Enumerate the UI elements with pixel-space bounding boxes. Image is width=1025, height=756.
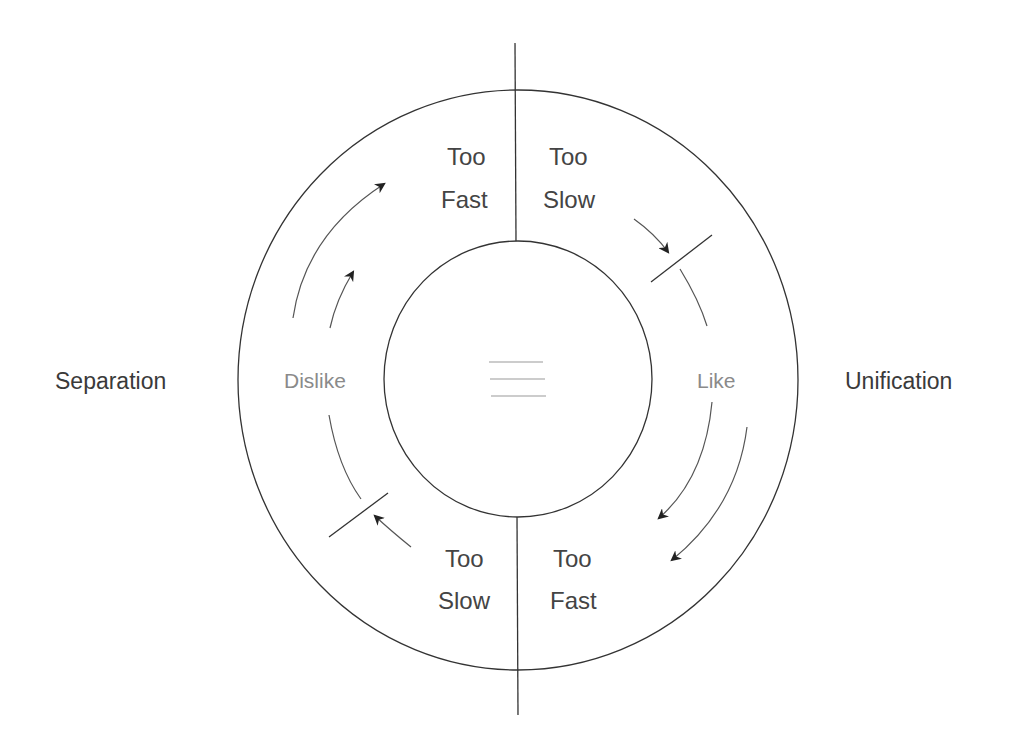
label-bottom-left-slow: Slow (438, 587, 491, 614)
label-unification: Unification (845, 368, 952, 394)
arrow-arc-right-outer (672, 427, 747, 560)
vertical-axis-top (515, 43, 516, 241)
label-dislike: Dislike (284, 369, 346, 392)
label-separation: Separation (55, 368, 166, 394)
arrow-arc-left-inner (330, 272, 353, 328)
arrow-arc-left-outer (293, 184, 384, 318)
label-bottom-right-fast: Fast (550, 587, 597, 614)
arc-left-lower (329, 415, 361, 499)
label-top-right-too: Too (549, 143, 588, 170)
label-top-left-too: Too (447, 143, 486, 170)
vertical-axis-bottom (517, 517, 518, 715)
label-top-left-fast: Fast (441, 186, 488, 213)
barrier-left (329, 493, 388, 537)
arrow-arc-bottom-left (375, 516, 411, 547)
label-like: Like (697, 369, 736, 392)
arc-right-upper (680, 269, 707, 326)
arrow-arc-top-right (634, 219, 668, 252)
label-bottom-right-too: Too (553, 545, 592, 572)
arrow-arc-right-inner (659, 402, 712, 518)
menu-lines-icon (489, 362, 546, 396)
label-top-right-slow: Slow (543, 186, 596, 213)
label-bottom-left-too: Too (445, 545, 484, 572)
diagram-canvas: Too Fast Too Slow Too Slow Too Fast Disl… (0, 0, 1025, 756)
